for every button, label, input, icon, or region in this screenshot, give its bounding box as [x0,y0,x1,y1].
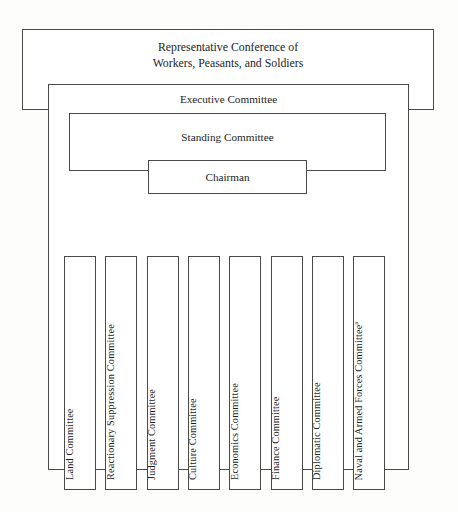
committee-box: Culture Committee [188,256,220,490]
committee-label: Land Committee [64,408,75,480]
standing-committee-label: Standing Committee [70,130,385,144]
chairman-box: Chairman [148,160,307,194]
committee-label: Economics Committee [229,383,240,480]
committee-box: Economics Committee [229,256,261,490]
committee-label: Finance Committee [270,397,281,480]
conference-label: Representative Conference of Workers, Pe… [23,39,433,71]
committee-label: Reactionary Suppression Committee [105,324,116,480]
committee-box: Finance Committee [271,256,303,490]
chairman-label: Chairman [149,170,306,184]
committee-box: Naval and Armed Forces Committeea [353,256,385,490]
committee-label: Judgment Committee [146,389,157,480]
committee-label: Naval and Armed Forces Committeea [351,321,363,480]
executive-committee-label: Executive Committee [49,92,408,106]
committee-box: Land Committee [64,256,96,490]
org-chart: Representative Conference of Workers, Pe… [0,0,458,512]
committee-box: Diplomatic Committee [312,256,344,490]
committee-box: Reactionary Suppression Committee [105,256,137,490]
committee-box: Judgment Committee [147,256,179,490]
committee-label: Culture Committee [187,398,198,480]
committee-label: Diplomatic Committee [311,382,322,480]
footnote-marker: a [351,321,358,324]
